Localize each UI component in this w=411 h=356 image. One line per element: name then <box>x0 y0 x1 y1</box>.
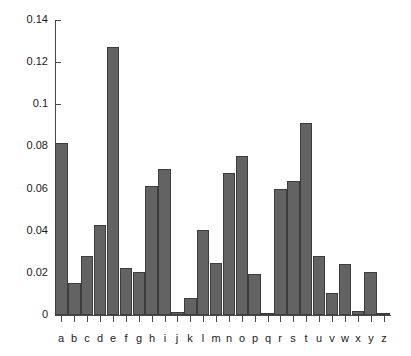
y-axis-tick-label-text: 0.02 <box>0 267 48 278</box>
bar-q <box>261 313 273 315</box>
bar-w <box>339 264 351 315</box>
bar-a <box>55 143 67 315</box>
y-axis-tick-label-text: 0.08 <box>0 140 48 151</box>
x-axis-tick <box>216 316 217 322</box>
x-axis-tick <box>113 316 114 322</box>
bar-e <box>107 47 119 315</box>
y-axis-tick-label: 0.04 <box>0 225 48 237</box>
x-axis-tick <box>126 316 127 322</box>
x-axis-tick <box>100 316 101 322</box>
x-axis-tick <box>242 316 243 322</box>
bar-v <box>326 293 338 315</box>
x-axis-tick-label-text: r <box>278 332 282 344</box>
x-axis-tick-label-text: k <box>187 332 193 344</box>
bar-l <box>197 230 209 315</box>
x-axis-tick <box>152 316 153 322</box>
bar-o <box>236 156 248 315</box>
x-axis-tick <box>332 316 333 322</box>
x-axis-tick <box>293 316 294 322</box>
x-axis-tick <box>61 316 62 322</box>
x-axis-tick <box>306 316 307 322</box>
x-axis-tick <box>371 316 372 322</box>
bar-p <box>248 274 260 315</box>
x-axis-tick-label-text: i <box>164 332 166 344</box>
bar-t <box>300 123 312 315</box>
bar-g <box>133 272 145 315</box>
x-axis-tick <box>255 316 256 322</box>
bar-j <box>171 312 183 315</box>
x-axis-tick <box>74 316 75 322</box>
bar-c <box>81 256 93 315</box>
bar-h <box>145 186 157 315</box>
y-axis-tick-label-text: 0.04 <box>0 225 48 236</box>
bar-r <box>274 189 286 315</box>
x-axis-tick-label-text: x <box>355 332 361 344</box>
x-axis-tick <box>139 316 140 322</box>
y-axis-tick-label: 0.12 <box>0 56 48 68</box>
x-axis-tick <box>229 316 230 322</box>
x-axis-tick <box>358 316 359 322</box>
x-axis-tick <box>384 316 385 322</box>
bar-chart: 00.020.040.060.080.10.120.14 abcdefghijk… <box>0 0 411 356</box>
x-axis-tick-label-text: t <box>304 332 307 344</box>
y-axis-tick-label-text: 0.14 <box>0 14 48 25</box>
bar-x <box>352 311 364 315</box>
x-axis-tick <box>190 316 191 322</box>
plot-area <box>55 20 390 315</box>
bar-b <box>68 283 80 315</box>
bar-z <box>377 313 389 315</box>
x-axis-tick-label-text: l <box>202 332 204 344</box>
x-axis-tick-label-text: v <box>329 332 335 344</box>
x-axis-tick-label-text: c <box>84 332 90 344</box>
bar-y <box>364 272 376 315</box>
bar-f <box>120 268 132 315</box>
x-axis-tick <box>319 316 320 322</box>
y-axis-tick-label-text: 0.12 <box>0 56 48 67</box>
x-axis-tick-label-text: y <box>368 332 374 344</box>
x-axis-tick-label-text: j <box>176 332 178 344</box>
y-axis-tick-label: 0.14 <box>0 14 48 26</box>
x-axis-tick-label-text: s <box>290 332 296 344</box>
x-axis-tick <box>87 316 88 322</box>
y-axis-tick-label: 0.02 <box>0 267 48 279</box>
x-axis-tick <box>203 316 204 322</box>
x-axis-tick-label-text: z <box>381 332 387 344</box>
bar-u <box>313 256 325 315</box>
bar-k <box>184 298 196 315</box>
y-axis-tick-label: 0.1 <box>0 98 48 110</box>
x-axis-tick <box>345 316 346 322</box>
bar-m <box>210 263 222 315</box>
y-axis-tick-label: 0.08 <box>0 140 48 152</box>
x-axis-tick <box>165 316 166 322</box>
y-axis-tick-label: 0 <box>0 309 48 321</box>
bar-n <box>223 173 235 315</box>
x-axis-tick <box>280 316 281 322</box>
y-axis-tick-label-text: 0.06 <box>0 183 48 194</box>
x-axis-tick-label: z <box>374 328 394 346</box>
x-axis-tick <box>268 316 269 322</box>
y-axis-tick-label-text: 0.1 <box>0 98 48 109</box>
bar-s <box>287 181 299 315</box>
x-axis-tick <box>177 316 178 322</box>
bar-i <box>158 169 170 315</box>
x-axis-tick-label-text: f <box>124 332 127 344</box>
x-axis-line <box>55 315 391 316</box>
y-axis-tick-label-text: 0 <box>0 309 48 320</box>
bar-d <box>94 225 106 315</box>
y-axis-tick-label: 0.06 <box>0 183 48 195</box>
